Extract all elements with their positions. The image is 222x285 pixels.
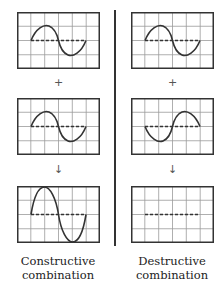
caption-destructive: Destructive combination bbox=[122, 254, 222, 282]
constructive-wave1-scope bbox=[17, 12, 100, 69]
caption-line-1: Destructive bbox=[122, 254, 222, 268]
constructive-wave2-scope bbox=[17, 98, 100, 155]
arrow-down-operator: ↓ bbox=[17, 164, 100, 176]
flat-line-icon bbox=[131, 186, 214, 243]
sine-wave-double-amplitude-icon bbox=[17, 186, 100, 243]
plus-operator: + bbox=[131, 77, 214, 89]
destructive-wave1-scope bbox=[131, 12, 214, 69]
plus-operator: + bbox=[17, 77, 100, 89]
sine-wave-icon bbox=[17, 98, 100, 155]
constructive-result-scope bbox=[17, 186, 100, 243]
caption-constructive: Constructive combination bbox=[8, 254, 108, 282]
caption-line-2: combination bbox=[122, 268, 222, 282]
caption-line-2: combination bbox=[8, 268, 108, 282]
caption-line-1: Constructive bbox=[8, 254, 108, 268]
sine-wave-icon bbox=[131, 12, 214, 69]
column-divider bbox=[114, 10, 116, 246]
destructive-wave2-scope bbox=[131, 98, 214, 155]
arrow-down-operator: ↓ bbox=[131, 164, 214, 176]
destructive-result-scope bbox=[131, 186, 214, 243]
sine-wave-icon bbox=[17, 12, 100, 69]
sine-wave-inverted-icon bbox=[131, 98, 214, 155]
